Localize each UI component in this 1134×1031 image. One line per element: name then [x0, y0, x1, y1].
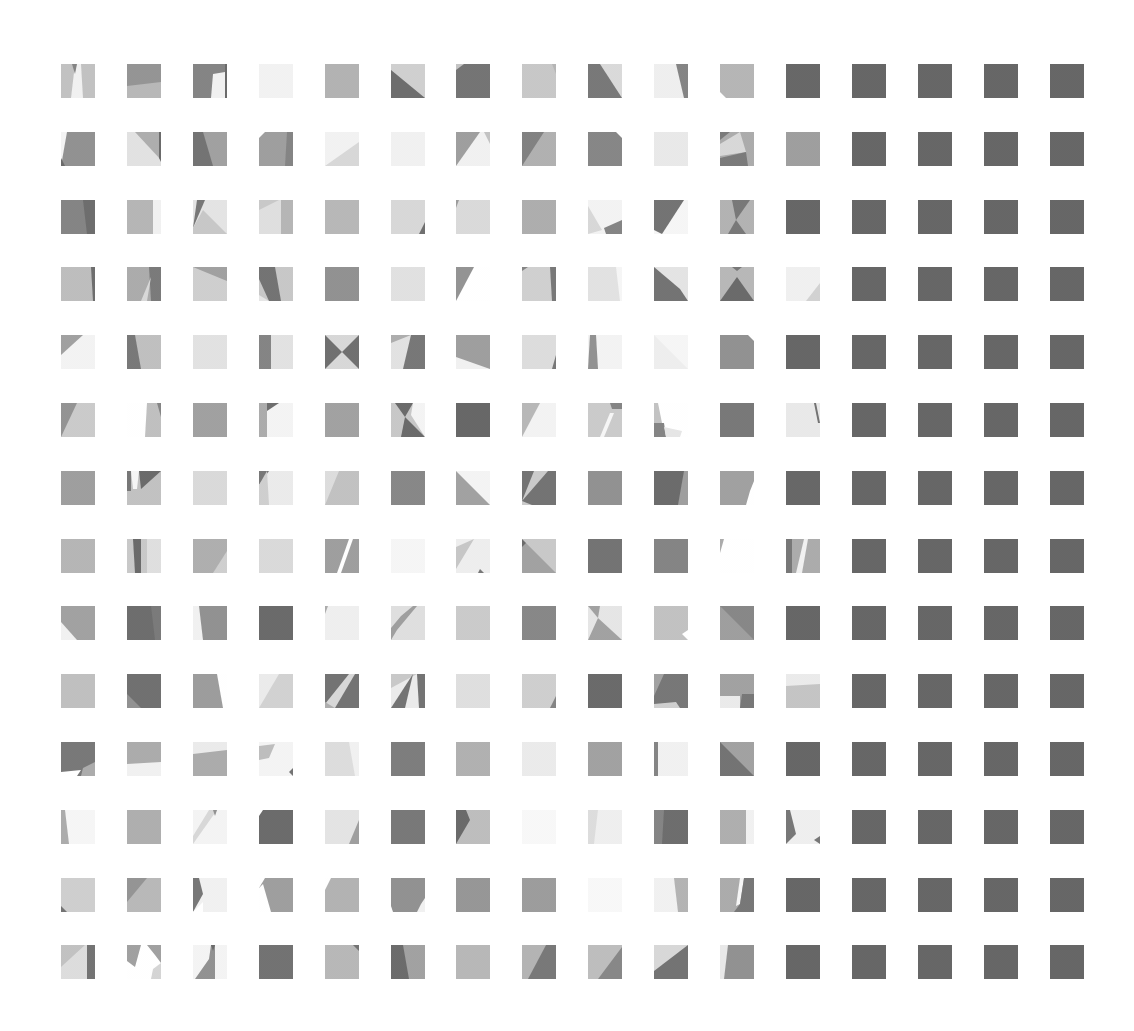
tile-image — [259, 132, 293, 166]
grid-tile — [588, 742, 622, 776]
tile-image — [522, 200, 556, 234]
grid-tile — [720, 471, 754, 505]
grid-tile — [456, 200, 490, 234]
tile-image — [918, 403, 952, 437]
grid-tile — [193, 471, 227, 505]
tile-image — [588, 64, 622, 98]
grid-tile — [259, 945, 293, 979]
grid-tile — [193, 403, 227, 437]
grid-tile — [193, 878, 227, 912]
grid-tile — [918, 742, 952, 776]
tile-image — [984, 200, 1018, 234]
tile-image — [1050, 674, 1084, 708]
grid-tile — [193, 539, 227, 573]
tile-image — [456, 471, 490, 505]
grid-tile — [193, 200, 227, 234]
tile-image — [918, 132, 952, 166]
tile-image — [127, 132, 161, 166]
grid-tile — [852, 64, 886, 98]
grid-tile — [1050, 945, 1084, 979]
grid-tile — [61, 742, 95, 776]
tile-image — [193, 335, 227, 369]
grid-tile — [984, 200, 1018, 234]
grid-tile — [127, 878, 161, 912]
grid-tile — [456, 403, 490, 437]
grid-tile — [588, 200, 622, 234]
tile-image — [522, 403, 556, 437]
grid-tile — [325, 945, 359, 979]
tile-image — [391, 945, 425, 979]
tile-image — [325, 539, 359, 573]
grid-tile — [918, 200, 952, 234]
tile-image — [325, 810, 359, 844]
grid-tile — [193, 945, 227, 979]
tile-image — [456, 403, 490, 437]
tile-image — [1050, 742, 1084, 776]
grid-tile — [61, 403, 95, 437]
tile-image — [720, 742, 754, 776]
grid-tile — [522, 471, 556, 505]
grid-tile — [127, 606, 161, 640]
grid-tile — [127, 471, 161, 505]
tile-image — [61, 810, 95, 844]
grid-tile — [852, 539, 886, 573]
tile-image — [1050, 471, 1084, 505]
tile-image — [259, 878, 293, 912]
grid-tile — [654, 335, 688, 369]
tile-image — [918, 335, 952, 369]
grid-tile — [654, 200, 688, 234]
tile-image — [1050, 267, 1084, 301]
tile-image — [127, 539, 161, 573]
grid-tile — [852, 471, 886, 505]
tile-image — [588, 200, 622, 234]
grid-tile — [522, 403, 556, 437]
grid-tile — [654, 810, 688, 844]
tile-image — [456, 132, 490, 166]
grid-tile — [127, 674, 161, 708]
tile-image — [918, 674, 952, 708]
grid-tile — [588, 132, 622, 166]
grid-tile — [193, 742, 227, 776]
tile-image — [654, 471, 688, 505]
tile-image — [456, 878, 490, 912]
tile-image — [61, 471, 95, 505]
tile-image — [720, 335, 754, 369]
tile-image — [786, 471, 820, 505]
tile-image — [456, 945, 490, 979]
tile-image — [1050, 200, 1084, 234]
grid-tile — [720, 810, 754, 844]
grid-tile — [127, 335, 161, 369]
tile-image — [588, 945, 622, 979]
grid-tile — [720, 606, 754, 640]
grid-tile — [588, 878, 622, 912]
grid-tile — [984, 64, 1018, 98]
tile-image — [456, 200, 490, 234]
tile-image — [391, 267, 425, 301]
tile-image — [456, 810, 490, 844]
tile-image — [391, 471, 425, 505]
tile-image — [786, 335, 820, 369]
tile-image — [588, 606, 622, 640]
grid-tile — [984, 810, 1018, 844]
grid-tile — [456, 878, 490, 912]
grid-tile — [1050, 539, 1084, 573]
tile-image — [522, 878, 556, 912]
tile-image — [127, 606, 161, 640]
grid-tile — [259, 335, 293, 369]
grid-tile — [984, 606, 1018, 640]
grid-tile — [456, 267, 490, 301]
tile-image — [852, 132, 886, 166]
grid-tile — [325, 878, 359, 912]
tile-image — [918, 539, 952, 573]
tile-image — [852, 810, 886, 844]
tile-image — [127, 945, 161, 979]
tile-image — [1050, 539, 1084, 573]
grid-tile — [61, 335, 95, 369]
image-grid — [61, 64, 1091, 994]
tile-image — [1050, 945, 1084, 979]
tile-image — [984, 539, 1018, 573]
grid-tile — [391, 335, 425, 369]
tile-image — [1050, 132, 1084, 166]
tile-image — [193, 200, 227, 234]
tile-image — [259, 403, 293, 437]
